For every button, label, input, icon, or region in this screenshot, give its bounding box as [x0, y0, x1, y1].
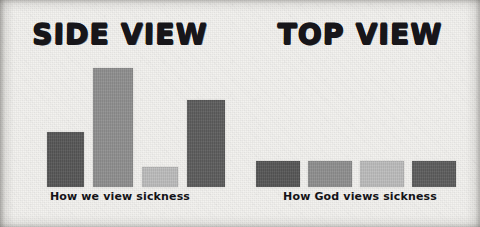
panel-top-view: TOP VIEW How God views sickness: [240, 0, 480, 227]
top-view-bar-group: [256, 47, 456, 187]
panel-side-view: SIDE VIEW How we view sickness: [0, 0, 240, 227]
side-view-bar-2: [93, 68, 133, 187]
side-view-bar-group: [47, 47, 225, 187]
side-view-bar-1: [47, 132, 84, 187]
side-view-bar-4: [187, 100, 225, 187]
top-view-bar-3: [360, 161, 404, 187]
top-view-bar-4: [412, 161, 456, 187]
top-view-chart: [240, 47, 480, 187]
top-view-bar-2: [308, 161, 352, 187]
side-view-bar-3: [142, 167, 178, 187]
side-view-chart: [0, 47, 240, 187]
top-view-bar-1: [256, 161, 300, 187]
side-view-caption: How we view sickness: [0, 190, 240, 203]
top-view-caption: How God views sickness: [240, 190, 480, 203]
meme-image: SIDE VIEW How we view sickness TOP VIEW …: [0, 0, 480, 227]
